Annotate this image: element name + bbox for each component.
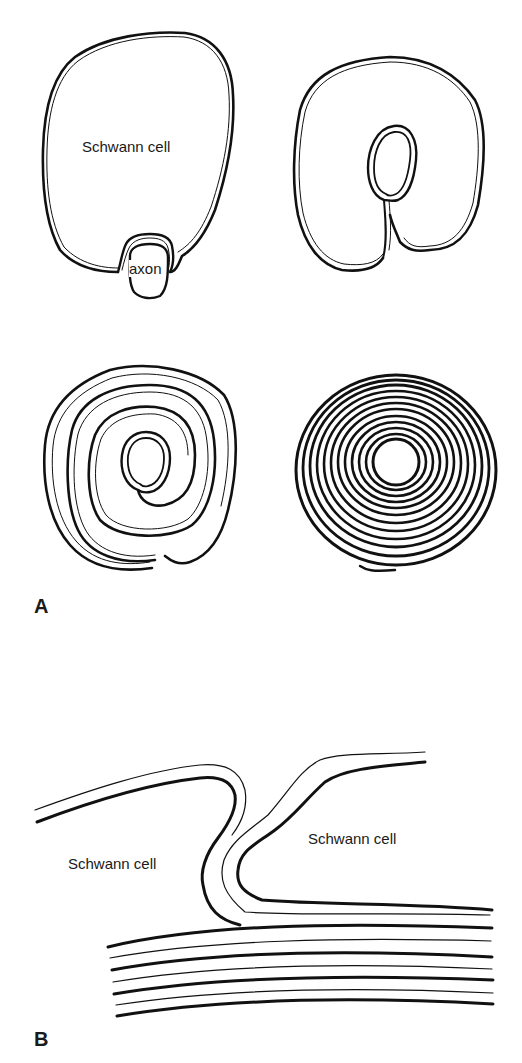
stage4-compact-myelin [296, 375, 496, 571]
panel-label-a: A [34, 595, 48, 618]
panel-b-right-schwann-cell-label: Schwann cell [308, 830, 396, 847]
panel-b-schwann-cells [35, 752, 493, 1016]
myelination-diagram [0, 0, 522, 1063]
stage3-spiral [44, 366, 235, 569]
axon-label: axon [129, 260, 162, 277]
stage1-schwann-cell-label: Schwann cell [82, 138, 170, 155]
panel-b-left-schwann-cell-label: Schwann cell [68, 855, 156, 872]
stage1-schwann-cell [43, 33, 233, 298]
panel-label-b: B [34, 1028, 48, 1051]
stage2-schwann-cell [294, 57, 484, 271]
